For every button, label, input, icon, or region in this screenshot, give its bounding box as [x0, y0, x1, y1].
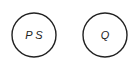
diagram-canvas: P S Q	[0, 0, 133, 61]
node-ps-label: P S	[25, 29, 43, 41]
node-ps: P S	[12, 13, 56, 57]
node-q: Q	[83, 13, 127, 57]
node-q-label: Q	[101, 29, 110, 41]
